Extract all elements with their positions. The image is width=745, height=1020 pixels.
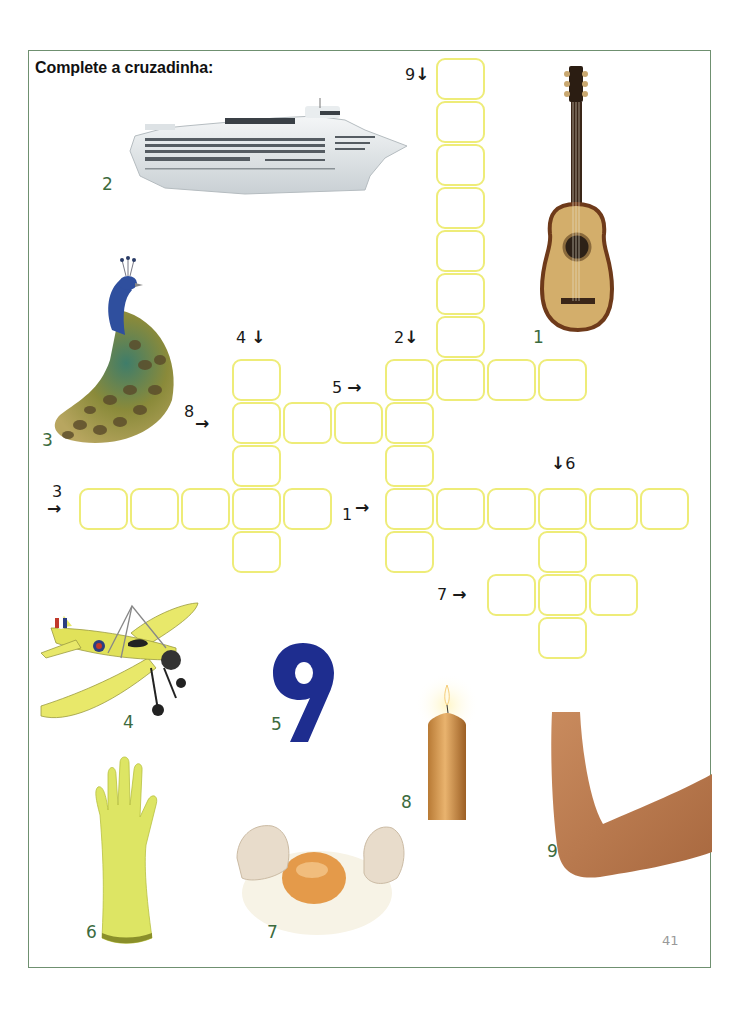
arrow-right-icon: →	[452, 584, 466, 604]
crossword-cell[interactable]	[130, 488, 179, 530]
crossword-cell[interactable]	[640, 488, 689, 530]
crossword-cell[interactable]	[385, 402, 434, 444]
crossword-cell[interactable]	[385, 488, 434, 530]
crossword-cell[interactable]	[436, 101, 485, 143]
crossword-cell[interactable]	[436, 273, 485, 315]
glove-icon	[86, 755, 166, 947]
arrow-right-icon: →	[355, 497, 369, 517]
clue-5-across: 5 →	[332, 379, 362, 396]
crossword-cell[interactable]	[487, 574, 536, 616]
clue-9-down: 9↓	[405, 66, 429, 83]
crossword-cell[interactable]	[589, 574, 638, 616]
clue-8-across: 8	[184, 404, 194, 420]
page-title: Complete a cruzadinha:	[35, 59, 213, 77]
arrow-down-icon: ↓	[415, 64, 429, 84]
clue-number: 7	[437, 585, 447, 604]
crossword-cell[interactable]	[538, 488, 587, 530]
crossword-cell[interactable]	[436, 316, 485, 358]
clue-1-across: 1	[342, 507, 352, 523]
clue-number: 4	[236, 328, 246, 347]
ship-icon	[125, 96, 410, 196]
crossword-cell[interactable]	[283, 402, 332, 444]
picture-number-3: 3	[42, 432, 53, 449]
picture-number-2: 2	[102, 176, 113, 193]
egg-icon	[232, 818, 410, 938]
arrow-right-icon: →	[347, 377, 361, 397]
guitar-icon	[536, 64, 616, 334]
arrow-right-icon: →	[355, 499, 369, 516]
crossword-cell[interactable]	[487, 359, 536, 401]
picture-number-4: 4	[123, 714, 134, 731]
crossword-cell[interactable]	[436, 144, 485, 186]
arrow-right-icon: →	[195, 413, 209, 433]
crossword-cell[interactable]	[436, 359, 485, 401]
picture-number-6: 6	[86, 924, 97, 941]
crossword-cell[interactable]	[232, 359, 281, 401]
clue-number: 6	[565, 454, 575, 473]
picture-number-7: 7	[267, 924, 278, 941]
arm-elbow-icon	[550, 712, 712, 882]
crossword-cell[interactable]	[436, 230, 485, 272]
arrow-right-icon: →	[47, 498, 61, 518]
crossword-cell[interactable]	[385, 445, 434, 487]
picture-number-1: 1	[533, 329, 544, 346]
clue-number: 5	[332, 378, 342, 397]
crossword-cell[interactable]	[334, 402, 383, 444]
crossword-cell[interactable]	[181, 488, 230, 530]
crossword-cell[interactable]	[436, 488, 485, 530]
crossword-cell[interactable]	[436, 187, 485, 229]
crossword-cell[interactable]	[283, 488, 332, 530]
page-number: 41	[662, 933, 679, 948]
candle-icon	[412, 675, 482, 825]
clue-6-down: ↓6	[551, 455, 575, 472]
clue-number: 8	[184, 402, 194, 421]
crossword-cell[interactable]	[385, 359, 434, 401]
clue-2-down: 2↓	[394, 329, 418, 346]
crossword-cell[interactable]	[79, 488, 128, 530]
arrow-right-icon: →	[47, 500, 61, 517]
crossword-cell[interactable]	[385, 531, 434, 573]
crossword-cell[interactable]	[538, 617, 587, 659]
clue-number: 9	[405, 65, 415, 84]
arrow-down-icon: ↓	[404, 327, 418, 347]
clue-number: 1	[342, 505, 352, 524]
picture-number-8: 8	[401, 794, 412, 811]
crossword-cell[interactable]	[538, 531, 587, 573]
clue-number: 2	[394, 328, 404, 347]
picture-number-9: 9	[547, 843, 558, 860]
crossword-cell[interactable]	[232, 402, 281, 444]
crossword-cell[interactable]	[538, 574, 587, 616]
crossword-cell[interactable]	[538, 359, 587, 401]
crossword-cell[interactable]	[487, 488, 536, 530]
arrow-down-icon: ↓	[551, 453, 565, 473]
crossword-cell[interactable]	[436, 58, 485, 100]
arrow-right-icon: →	[195, 415, 209, 432]
crossword-cell[interactable]	[232, 445, 281, 487]
clue-7-across: 7 →	[437, 586, 467, 603]
clue-4-down: 4 ↓	[236, 329, 266, 346]
crossword-cell[interactable]	[589, 488, 638, 530]
picture-number-5: 5	[271, 716, 282, 733]
crossword-cell[interactable]	[232, 488, 281, 530]
arrow-down-icon: ↓	[251, 327, 265, 347]
crossword-cell[interactable]	[232, 531, 281, 573]
airplane-icon	[36, 598, 201, 728]
peacock-icon	[50, 250, 180, 450]
